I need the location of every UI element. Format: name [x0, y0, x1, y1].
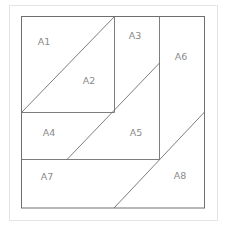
label-a8: A8	[174, 170, 187, 181]
quilt-block-diagram: A1 A2 A3 A4 A5 A6 A7 A8	[0, 0, 225, 227]
label-a3: A3	[129, 30, 142, 41]
label-a7: A7	[41, 171, 54, 182]
label-a5: A5	[130, 127, 143, 138]
label-a1: A1	[38, 36, 51, 47]
label-a4: A4	[43, 127, 56, 138]
label-a6: A6	[175, 51, 188, 62]
label-a2: A2	[83, 75, 96, 86]
